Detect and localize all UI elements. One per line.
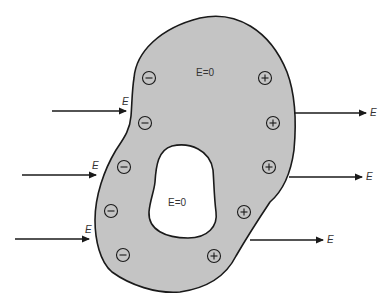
outgoing-field-arrow: E xyxy=(289,171,373,182)
cavity-interior-label: E=0 xyxy=(168,197,187,208)
conductor-interior-label: E=0 xyxy=(196,67,215,78)
outgoing-field-arrow: E xyxy=(250,234,334,245)
outgoing-field-arrow: E xyxy=(294,107,377,118)
incoming-field-arrow: E xyxy=(52,96,129,111)
field-label: E xyxy=(85,224,92,235)
conductor-diagram: E=0 E=0 EEE EEE xyxy=(0,0,391,301)
incoming-field-arrow: E xyxy=(15,224,92,239)
field-label: E xyxy=(122,96,129,107)
conductor-body xyxy=(95,16,295,292)
field-label: E xyxy=(92,160,99,171)
incoming-field-arrow: E xyxy=(22,160,99,175)
field-label: E xyxy=(366,171,373,182)
field-label: E xyxy=(327,234,334,245)
field-label: E xyxy=(370,107,377,118)
